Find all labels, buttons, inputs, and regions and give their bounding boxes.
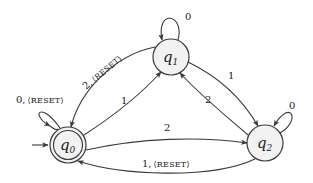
edge-q0-self-loop [39, 112, 60, 128]
label-q0-to-q2: 2 [164, 122, 170, 133]
label-q2-to-q0: 1,⟨RESET⟩ [142, 158, 190, 169]
label-q0-to-q1: 1 [121, 95, 127, 106]
state-q2: q2 [247, 125, 283, 161]
edge-q2-to-q1 [180, 73, 248, 135]
label-q1-to-q0: 2,⟨RESET⟩ [80, 52, 124, 91]
state-machine-diagram: q0 q1 q2 0,⟨RESET⟩ 0 0 2,⟨RESET⟩ 1 1 2 2… [0, 0, 313, 183]
label-q1-to-q2: 1 [228, 70, 234, 81]
edge-q0-self-loop-arc [50, 126, 58, 130]
edge-q1-self-loop [161, 18, 179, 40]
state-q1: q1 [153, 39, 189, 75]
edge-q1-to-q2 [188, 62, 258, 126]
label-q2-self-loop: 0 [289, 100, 295, 111]
label-q0-self-loop: 0,⟨RESET⟩ [16, 94, 64, 105]
label-q1-self-loop: 0 [185, 11, 191, 22]
state-q0: q0 [50, 127, 86, 163]
edge-q0-to-q2 [86, 139, 247, 150]
label-q2-to-q1: 2 [205, 94, 211, 105]
